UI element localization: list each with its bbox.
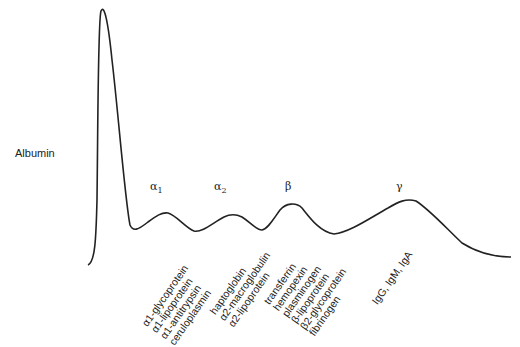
beta-label: β bbox=[285, 180, 291, 193]
alpha1-label: α1 bbox=[150, 180, 163, 195]
albumin-label: Albumin bbox=[15, 147, 55, 159]
gamma-label: γ bbox=[396, 180, 403, 193]
alpha2-label: α2 bbox=[214, 180, 227, 195]
